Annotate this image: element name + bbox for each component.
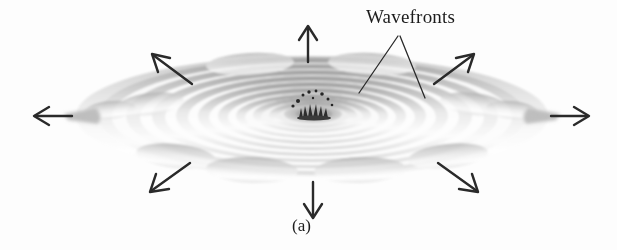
droplet-4 [315, 90, 318, 93]
wavefront-diagram: Wavefronts (a) [0, 0, 617, 250]
arrow-right [551, 107, 589, 125]
droplet-5 [320, 92, 324, 96]
droplet-1 [296, 99, 300, 103]
droplet-6 [327, 98, 330, 101]
arrow-down [304, 182, 322, 218]
droplet-3 [307, 90, 310, 93]
wave-illustration [0, 0, 617, 250]
arrow-left [34, 107, 72, 125]
droplet-9 [312, 97, 314, 99]
arrow-down-right [438, 163, 478, 192]
droplet-2 [302, 94, 305, 97]
splash-base [297, 115, 331, 120]
wavefronts-label: Wavefronts [366, 6, 455, 27]
panel-label: (a) [292, 216, 311, 235]
droplet-8 [331, 104, 334, 107]
droplet-7 [291, 104, 294, 107]
